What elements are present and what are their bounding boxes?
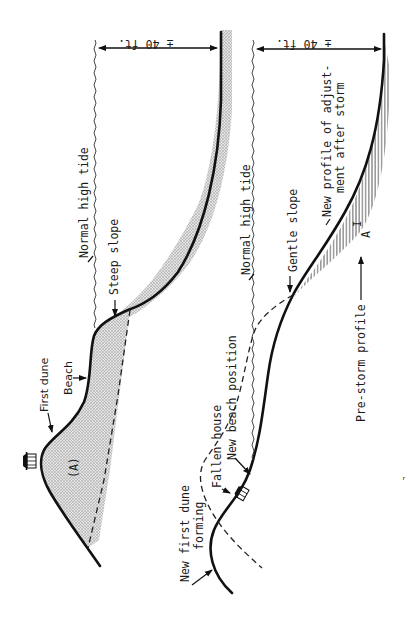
tide-label-top: Normal high tide: [77, 147, 91, 258]
new-dune-label-line2: forming: [192, 502, 206, 550]
top-panel: ± 40 ft. Normal high tide Steep slope Be…: [23, 30, 232, 566]
new-profile-label-line1: New profile of adjust-: [320, 65, 334, 217]
new-beach-label: New beach position: [225, 335, 239, 460]
dimension-label-top: ± 40 ft.: [118, 37, 173, 51]
tide-line-top: [94, 40, 96, 328]
first-dune-label: First dune: [38, 357, 51, 412]
area-a-prime-label: A: [359, 231, 373, 238]
steep-slope-label: Steep slope: [107, 219, 121, 295]
bottom-panel: ± 40 ft. Normal high tide Gentle slope N…: [178, 34, 390, 593]
area-a-prime-mark: I: [351, 221, 363, 227]
dimension-label-bottom: ± 40 ft.: [276, 37, 331, 51]
new-dune-label-line1: New first dune: [178, 485, 192, 582]
fallen-house-label: Fallen house: [210, 405, 224, 488]
gentle-slope-label: Gentle slope: [286, 189, 300, 272]
pre-storm-label: Pre-storm profile: [354, 304, 368, 422]
area-a-label: (A): [67, 457, 81, 478]
area-a-fill: [41, 308, 130, 548]
house-icon: [23, 452, 36, 470]
beach-profile-diagram: ± 40 ft. Normal high tide Steep slope Be…: [0, 0, 408, 635]
stray-mark: ʳ: [401, 474, 407, 486]
tide-label-bottom: Normal high tide: [239, 164, 253, 275]
new-profile-label-line2: ment after storm: [333, 82, 347, 193]
